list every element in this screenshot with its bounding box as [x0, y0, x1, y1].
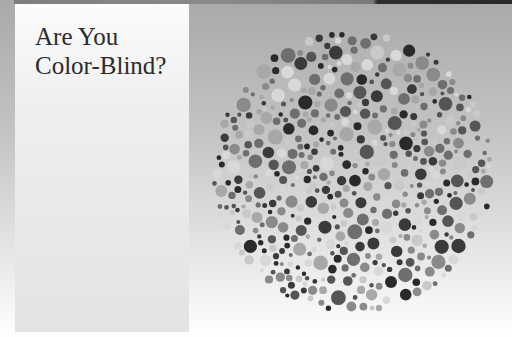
plate-dot	[234, 176, 242, 184]
plate-dot	[285, 293, 289, 297]
plate-dot	[383, 142, 387, 146]
plate-dot	[419, 228, 423, 232]
plate-dot	[279, 248, 285, 254]
plate-dot	[279, 176, 287, 184]
plate-dot	[266, 216, 278, 228]
plate-dot	[241, 205, 245, 209]
plate-dot	[373, 193, 380, 200]
plate-dot	[288, 282, 295, 289]
plate-dot	[376, 283, 383, 290]
plate-dot	[340, 127, 354, 141]
plate-dot	[257, 234, 261, 238]
plate-dot	[332, 67, 338, 73]
plate-dot	[449, 255, 459, 265]
plate-dot	[415, 266, 421, 272]
plate-dot	[403, 192, 408, 197]
plate-dot	[428, 167, 434, 173]
plate-dot	[342, 54, 353, 65]
plate-dot	[467, 231, 474, 238]
plate-dot	[249, 155, 263, 169]
plate-dot	[307, 155, 313, 161]
plate-dot	[372, 219, 379, 226]
plate-dot	[399, 234, 403, 238]
plate-dot	[399, 110, 407, 118]
plate-dot	[270, 79, 275, 84]
plate-dot	[284, 243, 290, 249]
plate-dot	[399, 218, 412, 231]
plate-dot	[225, 113, 229, 117]
plate-dot	[398, 93, 410, 105]
plate-dot	[254, 139, 263, 148]
plate-dot	[277, 207, 285, 215]
plate-dot	[445, 265, 452, 272]
plate-dot	[339, 32, 344, 37]
plate-dot	[313, 141, 319, 147]
plate-dot	[308, 286, 317, 295]
plate-dot	[371, 33, 378, 40]
plate-dot	[437, 112, 442, 117]
plate-dot	[384, 182, 391, 189]
plate-dot	[317, 238, 321, 242]
plate-dot	[369, 283, 373, 287]
plate-dot	[441, 273, 446, 278]
plate-dot	[484, 204, 490, 210]
plate-dot	[281, 48, 296, 63]
plate-dot	[341, 220, 348, 227]
plate-dot	[342, 264, 349, 271]
plate-dot	[353, 295, 358, 300]
plate-dot	[410, 113, 417, 120]
plate-dot	[280, 262, 284, 266]
plate-dot	[339, 152, 344, 157]
plate-dot	[235, 225, 245, 235]
plate-dot	[319, 137, 324, 142]
plate-dot	[434, 199, 439, 204]
plate-dot	[376, 253, 383, 260]
plate-dot	[306, 234, 311, 239]
plate-dot	[277, 149, 286, 158]
plate-dot	[424, 207, 431, 214]
plate-dot	[225, 180, 231, 186]
plate-dot	[411, 197, 416, 202]
plate-dot	[277, 196, 282, 201]
plate-dot	[413, 278, 421, 286]
plate-dot	[281, 102, 286, 107]
plate-dot	[357, 214, 369, 226]
plate-dot	[274, 261, 279, 266]
plate-dot	[266, 170, 273, 177]
plate-dot	[311, 109, 319, 117]
plate-dot	[263, 147, 275, 159]
plate-dot	[415, 56, 429, 70]
plate-dot	[392, 162, 398, 168]
plate-dot	[302, 272, 306, 276]
plate-dot	[481, 169, 486, 174]
plate-dot	[312, 279, 317, 284]
plate-dot	[296, 265, 300, 269]
plate-dot	[472, 225, 478, 231]
plate-dot	[433, 281, 438, 286]
plate-dot	[234, 242, 242, 250]
plate-dot	[243, 190, 247, 194]
plate-dot	[401, 202, 406, 207]
plate-dot	[415, 203, 419, 207]
plate-dot	[306, 188, 312, 194]
plate-dot	[254, 187, 266, 199]
plate-dot	[385, 129, 389, 133]
plate-dot	[357, 135, 365, 143]
plate-dot	[351, 62, 361, 72]
plate-dot	[251, 92, 255, 96]
plate-dot	[320, 85, 325, 90]
plate-dot	[413, 287, 422, 296]
plate-dot	[284, 137, 294, 147]
plate-dot	[390, 50, 401, 61]
plate-dot	[310, 182, 317, 189]
plate-dot	[464, 182, 469, 187]
plate-dot	[442, 215, 454, 227]
plate-dot	[334, 255, 342, 263]
plate-dot	[346, 92, 353, 99]
plate-dot	[315, 188, 320, 193]
plate-dot	[383, 35, 390, 42]
plate-dot	[296, 275, 303, 282]
plate-dot	[348, 36, 357, 45]
plate-dot	[219, 162, 225, 168]
plate-dot	[420, 103, 427, 110]
